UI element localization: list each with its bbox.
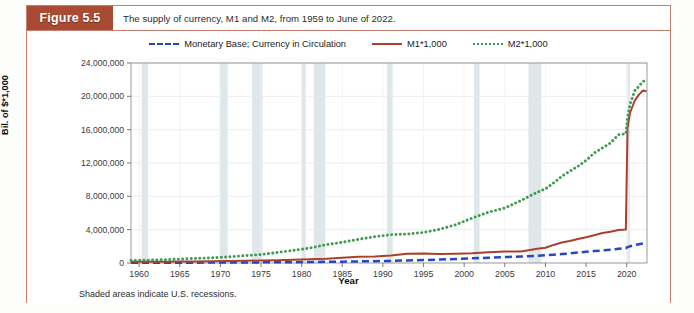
y-tick-label-5: 20,000,000 <box>81 91 124 101</box>
y-tick-label-0: 0 <box>119 258 124 268</box>
figure-caption: The supply of currency, M1 and M2, from … <box>113 6 670 30</box>
chart-plot: 04,000,0008,000,00012,000,00016,000,0002… <box>27 31 672 304</box>
chart-body: Monetary Base; Currency in Circulation M… <box>27 31 670 304</box>
y-tick-label-1: 4,000,000 <box>86 225 124 235</box>
plot-area-wrapper: 04,000,0008,000,00012,000,00016,000,0002… <box>27 31 670 304</box>
y-tick-label-4: 16,000,000 <box>81 125 124 135</box>
y-tick-label-6: 24,000,000 <box>81 58 124 68</box>
y-tick-label-3: 12,000,000 <box>81 158 124 168</box>
figure-frame: Figure 5.5 The supply of currency, M1 an… <box>26 5 671 303</box>
y-tick-label-2: 8,000,000 <box>86 191 124 201</box>
figure-screenshot: Figure 5.5 The supply of currency, M1 an… <box>0 0 694 313</box>
y-axis-title: Millions of Dollars, Bil. of $*1,000 <box>0 45 11 165</box>
figure-number-badge: Figure 5.5 <box>27 6 113 30</box>
x-axis-title: Year <box>27 275 670 286</box>
chart-footnote: Shaded areas indicate U.S. recessions. <box>79 289 237 299</box>
y-axis-title-line2: Bil. of $*1,000 <box>0 45 11 165</box>
figure-header: Figure 5.5 The supply of currency, M1 an… <box>27 6 670 31</box>
